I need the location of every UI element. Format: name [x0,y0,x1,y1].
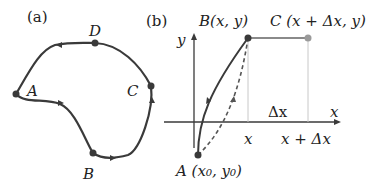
panel-a-label: (a) [27,8,48,26]
y-axis-arrow-icon [191,33,197,40]
closed-path-curve [16,43,151,158]
panel-b-label: (b) [146,12,167,30]
label-d: D [88,22,101,40]
label-a: A (x₀, y₀) [174,162,242,180]
point-d [92,40,99,47]
diagram-canvas: (a) A D C B (b) y x B(x, y) C (x + Δx, y… [0,0,388,194]
tick-x: x [244,130,253,148]
tick-x-dx: x + Δx [281,130,331,148]
arrow-icon [56,42,62,48]
arrow-icon [149,97,155,103]
label-a: A [25,82,38,100]
label-c: C (x + Δx, y) [270,12,366,30]
arrow-icon [230,96,236,102]
point-a [13,91,20,98]
label-b: B(x, y) [198,12,248,30]
x-axis-label: x [330,103,339,121]
label-b: B [82,165,94,183]
label-c: C [127,82,139,100]
point-a [195,152,202,159]
point-b [245,35,252,42]
figure: (a) A D C B (b) y x B(x, y) C (x + Δx, y… [0,0,388,194]
delta-label: Δx [268,103,288,121]
arrow-icon [110,155,116,161]
curve-ab [198,38,248,155]
point-b [90,150,97,157]
dashed-path [198,38,248,155]
y-axis-label: y [176,31,186,49]
point-c [148,83,155,90]
point-c [305,35,312,42]
